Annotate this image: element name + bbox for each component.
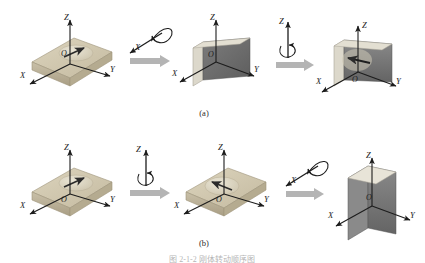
axis-label-z: Z bbox=[218, 142, 223, 152]
rotation-axis-label-x: X bbox=[134, 42, 141, 52]
axis-label-x: X bbox=[327, 210, 334, 220]
panel-label-b: (b) bbox=[199, 238, 209, 248]
axis-label-z: Z bbox=[366, 150, 371, 160]
bottom-caption-text: 图 2-1-2 刚体转动顺序图 bbox=[169, 254, 254, 263]
origin-label: O bbox=[352, 75, 358, 84]
axis-label-x: X bbox=[19, 70, 26, 80]
origin-label: O bbox=[216, 195, 222, 204]
origin-label: O bbox=[61, 195, 67, 204]
rotation-sequence-figure: Z X Y O X Z bbox=[0, 0, 425, 263]
axis-label-x: X bbox=[315, 76, 322, 86]
origin-label: O bbox=[61, 49, 67, 58]
axis-label-x: X bbox=[173, 200, 180, 210]
axis-label-x: X bbox=[171, 68, 178, 78]
bottom-caption: 图 2-1-2 刚体转动顺序图 bbox=[169, 254, 254, 263]
axis-label-x: X bbox=[19, 200, 26, 210]
panel-label-a: (a) bbox=[199, 108, 209, 118]
origin-label: O bbox=[366, 193, 372, 202]
axis-label-z: Z bbox=[64, 12, 69, 22]
rotation-axis-label-z: Z bbox=[136, 144, 141, 154]
axis-label-z: Z bbox=[64, 142, 69, 152]
axis-label-z: Z bbox=[362, 20, 367, 30]
rotation-axis-label-x: X bbox=[290, 175, 297, 185]
rotation-axis-label-z: Z bbox=[279, 16, 284, 26]
origin-label: O bbox=[208, 50, 214, 59]
axis-label-z: Z bbox=[210, 12, 215, 22]
